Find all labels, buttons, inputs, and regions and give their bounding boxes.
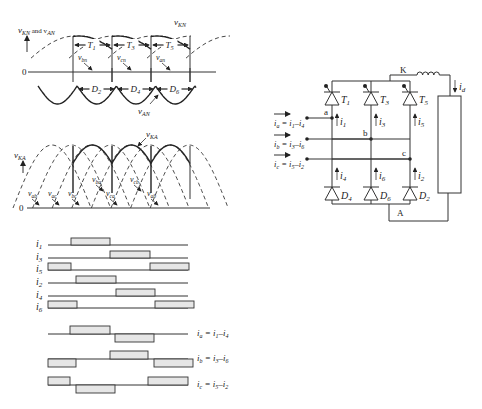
pulse-row-label: i2 [36,276,43,289]
input-terminal-icon [305,116,309,120]
line-voltage-label: vab [28,189,37,199]
positive-pulse [110,351,148,359]
thyristor-label: T1 [341,94,350,107]
gate-terminal-icon [402,84,406,88]
negative-pulse [48,359,76,367]
current-pulse [110,251,150,258]
gate-terminal-icon [363,84,367,88]
input-terminal-icon [305,157,309,161]
junction-dot-icon [330,116,334,120]
line-current-equation: ic = i5–i2 [197,379,228,390]
bottom-waveforms: vabvacvbcvbavcavcbvab [13,145,228,208]
diode-D6: D6i6 [363,168,391,203]
positive-pulse [70,326,110,334]
y-axis-label: vKA [14,150,26,161]
positive-pulse [48,377,70,385]
negative-pulse [154,359,193,367]
conduction-intervals: T1T3T5D2D4D6vbnvcnvan [75,39,192,95]
current-pulse-row: i4 [36,289,188,302]
thyristor-T5: T5i5 [402,84,429,129]
device-current-label: i5 [418,116,425,129]
line-voltage-dashed [150,145,228,208]
anode-label-a: A [397,208,404,218]
current-pulse-row: i1 [36,238,188,251]
bridge-circuit: idKAT1i1D4i4T3i3D6i6T5i5D2i2aia = i1–i4b… [274,65,466,221]
gate-lead [405,87,408,92]
diode-icon [364,187,378,200]
line-current-waveforms: ia = i1–i4ib = i3–i6ic = i5–i2 [48,326,229,393]
input-current-equation: ib = i3–i6 [274,139,304,150]
phase-voltage-dashed [31,36,75,58]
diode-label: D6 [379,190,391,203]
current-pulse [76,276,116,283]
pointer-arrow-icon [162,63,170,70]
device-current-label: i6 [379,170,386,183]
line-voltage-label: vac [48,189,57,199]
negative-pulse [76,385,115,393]
node-label: c [402,148,406,158]
thyristor-icon [325,92,339,105]
phase-voltage-label: van [156,53,165,63]
zero-label: 0 [19,203,24,213]
diode-icon [325,187,339,200]
gate-lead [366,87,369,92]
current-pulse-row: i5 [36,263,189,276]
line-voltage-label: vca [106,189,115,199]
converter-diagram: vKN and vAN 0 vKN vAN T1T3T5D2D4D6vbnvcn… [0,0,482,409]
diode-D2: D2i2 [402,168,430,203]
y-axis-label: vKN and vAN [18,25,56,36]
diode-label: D2 [418,190,430,203]
diode-icon [403,187,417,200]
pointer-arrow-icon [72,199,79,205]
current-pulse-row: i2 [36,276,188,289]
current-pulse [155,301,194,308]
current-pulse [48,301,77,308]
thyristor-icon [403,92,417,105]
load-current-label: id [459,81,466,94]
cathode-label-k: K [400,65,407,75]
current-pulse-row: i6 [36,301,194,314]
current-pulse-row: i3 [36,251,188,264]
line-voltage-label: vba [92,175,101,185]
van-pointer-arrow-icon [150,95,158,104]
line-current-row: ia = i1–i4 [48,326,229,342]
line-current-row: ic = i5–i2 [48,377,228,393]
zero-label: 0 [22,67,27,77]
thyristor-label: T3 [380,94,390,107]
wire-to-load [439,75,450,96]
vka-curve-label: vKA [146,129,158,140]
current-pulse [48,263,71,270]
vka-waveform-plot: vKA 0 vKA vabvacvbcvbavcavcbvab [13,129,228,213]
line-current-row: ib = i3–i6 [48,351,229,367]
line-current-equation: ia = i1–i4 [197,328,229,339]
current-pulse [116,289,155,296]
node-label: b [363,128,368,138]
positive-pulse [148,377,188,385]
input-terminal-icon [305,137,309,141]
pointer-arrow-icon [151,199,158,205]
phase-voltage-label: vbn [78,53,87,63]
pulse-row-label: i5 [36,263,43,276]
device-current-label: i1 [340,116,346,129]
current-pulse [150,263,189,270]
gate-lead [327,87,330,92]
inductor-icon [417,72,439,75]
pointer-arrow-icon [84,63,92,70]
ac-input-a: aia = i1–i4 [274,107,334,129]
device-current-label: i2 [418,170,425,183]
line-current-equation: ib = i3–i6 [197,353,229,364]
diode-D4: D4i4 [324,168,352,203]
device-current-pulses: i1i3i5i2i4i6 [36,238,194,314]
thyristor-icon [364,92,378,105]
node-label: a [324,107,328,117]
pointer-arrow-icon [110,199,117,205]
pulse-row-label: i1 [36,238,42,251]
wire-k [390,75,417,81]
vka-pointer-arrow-icon [138,138,146,146]
vkn-van-waveform-plot: vKN and vAN 0 vKN vAN T1T3T5D2D4D6vbnvcn… [18,17,230,117]
phase-voltage-label: vcn [117,53,126,63]
negative-pulse [115,334,154,342]
line-voltage-label: vcb [130,175,139,185]
vkn-curve-label: vKN [174,17,187,28]
van-curve-label: vAN [138,106,151,117]
